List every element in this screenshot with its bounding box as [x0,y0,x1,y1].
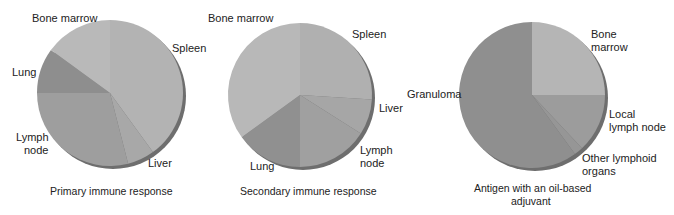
label-lymph-node-line1: Lymph [16,131,49,143]
label-other-lymphoid-line2: organs [582,165,616,177]
pie-primary [37,20,186,169]
label-bone-marrow-line1: Bone [591,28,617,40]
label-local-lymph-node-line1: Local [609,108,635,120]
label-lymph-node-line2: node [24,144,48,156]
label-bone-marrow: Bone marrow [32,12,97,24]
label-bone-marrow: Bone marrow [208,12,273,24]
label-spleen: Spleen [172,42,206,54]
label-lung: Lung [250,160,274,172]
caption-adjuvant-line1: Antigen with an oil-based [474,182,591,194]
label-lymph-node-line2: node [360,157,384,169]
label-lymph-node-line1: Lymph [360,144,393,156]
pie-charts-figure: Bone marrow Spleen Lung Lymph node Liver… [0,0,674,215]
caption-secondary: Secondary immune response [240,185,377,197]
label-liver: Liver [148,157,172,169]
pie-secondary [228,23,375,170]
label-local-lymph-node-line2: lymph node [609,121,666,133]
caption-primary: Primary immune response [50,185,173,197]
label-lung: Lung [12,66,36,78]
label-liver: Liver [379,102,403,114]
pie-adjuvant [459,22,608,171]
label-other-lymphoid-line1: Other lymphoid [582,152,657,164]
label-granuloma: Granuloma [407,88,462,100]
caption-adjuvant-line2: adjuvant [511,195,551,207]
label-bone-marrow-line2: marrow [591,41,628,53]
label-spleen: Spleen [352,28,386,40]
